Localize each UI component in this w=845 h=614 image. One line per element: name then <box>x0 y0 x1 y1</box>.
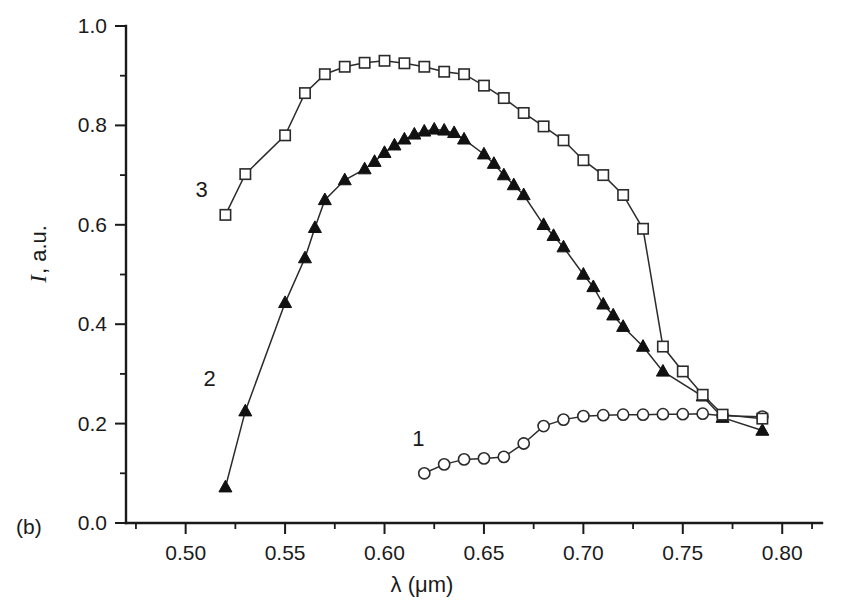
series-3-marker-open-square <box>499 93 509 103</box>
y-tick-label: 0.2 <box>78 412 107 435</box>
series-3-marker-open-square <box>558 135 568 145</box>
series-1-marker-open-circle <box>518 438 529 449</box>
y-axis-title-units: , a.u. <box>26 225 51 274</box>
series-2-line <box>225 129 762 487</box>
series-3-marker-open-square <box>519 108 529 118</box>
series-3-line <box>225 61 762 419</box>
spectra-line-chart: 0.500.550.600.650.700.750.80 0.00.20.40.… <box>0 0 845 614</box>
curve-label-1: 1 <box>412 426 424 451</box>
series-2-marker-filled-triangle <box>537 218 550 230</box>
series-3-marker-open-square <box>280 130 290 140</box>
curve-label-2: 2 <box>203 366 215 391</box>
series-3-marker-open-square <box>379 56 389 66</box>
series-3-marker-open-square <box>598 170 608 180</box>
y-tick-label: 0.6 <box>78 213 107 236</box>
series-3-marker-open-square <box>757 413 767 423</box>
series-1-marker-open-circle <box>498 451 509 462</box>
series-2-marker-filled-triangle <box>239 404 252 416</box>
series-1-marker-open-circle <box>618 409 629 420</box>
panel-label: (b) <box>16 515 42 538</box>
series-1-marker-open-circle <box>657 409 668 420</box>
y-tick-label: 0.0 <box>78 511 107 534</box>
series-2-marker-filled-triangle <box>298 251 311 263</box>
x-tick-label: 0.60 <box>364 541 405 564</box>
series-1-marker-open-circle <box>419 468 430 479</box>
series-3-marker-open-square <box>479 80 489 90</box>
series-1-marker-open-circle <box>558 414 569 425</box>
series-1-marker-open-circle <box>697 408 708 419</box>
x-tick-label: 0.50 <box>165 541 206 564</box>
figure-panel-b: 0.500.550.600.650.700.750.80 0.00.20.40.… <box>0 0 845 614</box>
x-axis-ticks <box>136 523 812 534</box>
y-axis-ticks <box>115 26 126 523</box>
y-axis-title: I , a.u. <box>26 225 51 284</box>
series-1-marker-open-circle <box>538 420 549 431</box>
series-2-marker-filled-triangle <box>477 147 490 159</box>
series-2 <box>219 122 769 491</box>
series-1-marker-open-circle <box>578 411 589 422</box>
series-3-marker-open-square <box>678 366 688 376</box>
series-1 <box>419 408 768 479</box>
series-3-marker-open-square <box>359 58 369 68</box>
series-3-marker-open-square <box>439 67 449 77</box>
series-2-marker-filled-triangle <box>219 480 232 492</box>
series-3-marker-open-square <box>538 121 548 131</box>
series-3-marker-open-square <box>399 58 409 68</box>
series-2-marker-filled-triangle <box>338 173 351 185</box>
series-3-marker-open-square <box>340 62 350 72</box>
series-3-marker-open-square <box>638 224 648 234</box>
series-2-marker-filled-triangle <box>308 221 321 233</box>
x-tick-label: 0.80 <box>762 541 803 564</box>
series-3-marker-open-square <box>240 169 250 179</box>
data-series-layer <box>219 56 769 492</box>
y-tick-label: 1.0 <box>78 14 107 37</box>
series-3 <box>220 56 767 424</box>
series-3-marker-open-square <box>419 62 429 72</box>
series-1-marker-open-circle <box>458 454 469 465</box>
series-3-marker-open-square <box>618 190 628 200</box>
series-3-marker-open-square <box>459 69 469 79</box>
series-1-marker-open-circle <box>439 459 450 470</box>
y-tick-label: 0.8 <box>78 113 107 136</box>
series-3-marker-open-square <box>717 409 727 419</box>
series-1-marker-open-circle <box>637 409 648 420</box>
series-2-marker-filled-triangle <box>597 297 610 309</box>
series-1-marker-open-circle <box>598 410 609 421</box>
series-3-marker-open-square <box>300 88 310 98</box>
series-2-marker-filled-triangle <box>279 296 292 308</box>
x-tick-label: 0.70 <box>563 541 604 564</box>
series-1-marker-open-circle <box>677 409 688 420</box>
series-3-marker-open-square <box>320 69 330 79</box>
series-1-line <box>424 414 762 474</box>
x-axis-title: λ (μm) <box>391 572 454 597</box>
axes-group: 0.500.550.600.650.700.750.80 0.00.20.40.… <box>78 14 822 564</box>
series-3-marker-open-square <box>220 210 230 220</box>
x-tick-label: 0.65 <box>464 541 505 564</box>
curve-label-3: 3 <box>195 177 207 202</box>
x-tick-label: 0.75 <box>662 541 703 564</box>
x-axis-tick-labels: 0.500.550.600.650.700.750.80 <box>165 541 802 564</box>
series-3-marker-open-square <box>578 155 588 165</box>
series-3-marker-open-square <box>658 341 668 351</box>
series-2-marker-filled-triangle <box>458 132 471 144</box>
y-tick-label: 0.4 <box>78 312 108 335</box>
y-axis-title-symbol: I <box>26 274 51 284</box>
series-1-marker-open-circle <box>478 453 489 464</box>
y-axis-tick-labels: 0.00.20.40.60.81.0 <box>78 14 108 534</box>
series-3-marker-open-square <box>697 390 707 400</box>
x-tick-label: 0.55 <box>265 541 306 564</box>
